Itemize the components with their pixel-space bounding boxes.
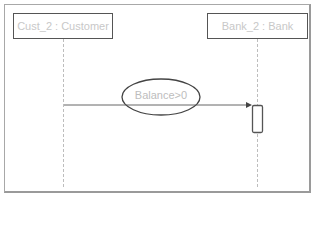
activation-bar[interactable] xyxy=(253,106,263,133)
guard-condition-label: Balance>0 xyxy=(122,89,200,101)
arrowhead-icon xyxy=(246,102,252,108)
